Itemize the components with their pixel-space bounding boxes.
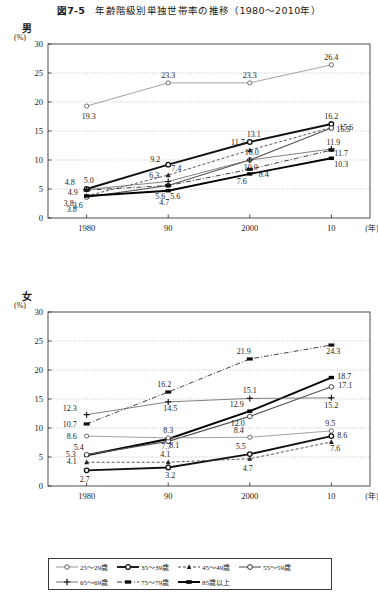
svg-text:15.1: 15.1 bbox=[243, 386, 257, 395]
svg-text:9.2: 9.2 bbox=[150, 155, 160, 164]
svg-text:3.8: 3.8 bbox=[67, 205, 77, 214]
svg-text:25: 25 bbox=[35, 336, 44, 346]
svg-text:30: 30 bbox=[35, 307, 44, 317]
male-line-chart: 051015202530198090200010(年)19.323.323.32… bbox=[0, 20, 378, 270]
svg-text:21.9: 21.9 bbox=[237, 347, 251, 356]
svg-text:5.0: 5.0 bbox=[84, 176, 94, 185]
svg-text:(年): (年) bbox=[365, 491, 378, 501]
svg-text:15.5: 15.5 bbox=[336, 125, 350, 134]
legend-row-bottom: 65～69歳 75～79歳 85歳以上 bbox=[49, 574, 331, 589]
svg-text:10: 10 bbox=[35, 155, 44, 165]
svg-text:30: 30 bbox=[35, 39, 44, 49]
svg-text:24.3: 24.3 bbox=[326, 347, 340, 356]
svg-text:4.9: 4.9 bbox=[68, 188, 78, 197]
svg-text:90: 90 bbox=[164, 491, 173, 501]
svg-text:15: 15 bbox=[35, 394, 44, 404]
svg-text:8.4: 8.4 bbox=[234, 426, 244, 435]
svg-text:10.7: 10.7 bbox=[63, 420, 77, 429]
svg-text:4.7: 4.7 bbox=[243, 464, 253, 473]
svg-text:8.6: 8.6 bbox=[67, 432, 77, 441]
legend-symbol-25-29 bbox=[56, 562, 78, 572]
legend-item-4: 65～69歳 bbox=[56, 577, 108, 587]
svg-text:(年): (年) bbox=[365, 223, 378, 233]
svg-text:5: 5 bbox=[39, 184, 43, 194]
svg-text:4.1: 4.1 bbox=[160, 450, 170, 459]
svg-text:4.7: 4.7 bbox=[159, 198, 169, 207]
svg-text:8.3: 8.3 bbox=[163, 426, 173, 435]
svg-text:10.0: 10.0 bbox=[245, 148, 259, 157]
svg-text:4.8: 4.8 bbox=[65, 178, 75, 187]
legend-item-3: 55～59歳 bbox=[239, 562, 291, 572]
legend-row-top: 25～29歳 35～39歳 45～49歳 55～59歳 bbox=[49, 559, 331, 574]
svg-text:19.3: 19.3 bbox=[82, 112, 96, 121]
legend-label-4: 65～69歳 bbox=[80, 577, 108, 587]
male-plot-area: 051015202530198090200010(年)19.323.323.32… bbox=[0, 20, 378, 270]
svg-text:5: 5 bbox=[39, 452, 43, 462]
svg-text:26.4: 26.4 bbox=[324, 53, 338, 62]
svg-text:90: 90 bbox=[164, 223, 173, 233]
svg-text:20: 20 bbox=[35, 97, 44, 107]
svg-text:25: 25 bbox=[35, 68, 44, 78]
svg-text:18.7: 18.7 bbox=[337, 372, 351, 381]
legend-symbol-35-39 bbox=[117, 562, 139, 572]
svg-text:2000: 2000 bbox=[241, 491, 258, 501]
svg-text:11.9: 11.9 bbox=[327, 138, 341, 147]
female-line-chart: 051015202530198090200010(年)10.716.221.92… bbox=[0, 288, 378, 538]
legend-item-6: 85歳以上 bbox=[178, 577, 230, 587]
legend-item-1: 35～39歳 bbox=[117, 562, 169, 572]
svg-text:2.7: 2.7 bbox=[80, 475, 90, 484]
legend-item-0: 25～29歳 bbox=[56, 562, 108, 572]
svg-text:12.3: 12.3 bbox=[63, 404, 77, 413]
svg-text:4.1: 4.1 bbox=[67, 457, 77, 466]
svg-text:16.2: 16.2 bbox=[324, 112, 338, 121]
legend-label-2: 45～49歳 bbox=[202, 562, 230, 572]
svg-text:1980: 1980 bbox=[78, 491, 95, 501]
legend-label-3: 55～59歳 bbox=[263, 562, 291, 572]
legend-symbol-45-49 bbox=[178, 562, 200, 572]
svg-text:16.2: 16.2 bbox=[157, 380, 171, 389]
legend-symbol-65-69 bbox=[56, 577, 78, 587]
svg-text:7.4: 7.4 bbox=[171, 164, 181, 173]
legend-label-6: 85歳以上 bbox=[202, 577, 230, 587]
figure-title-text: 年齢階級別単独世帯率の推移（1980～2010年） bbox=[95, 5, 321, 16]
svg-text:15: 15 bbox=[35, 126, 44, 136]
legend-symbol-85-plus bbox=[178, 577, 200, 587]
svg-text:2000: 2000 bbox=[241, 223, 258, 233]
svg-text:11.7: 11.7 bbox=[231, 138, 245, 147]
svg-text:8.6: 8.6 bbox=[337, 431, 347, 440]
legend-label-1: 35～39歳 bbox=[141, 562, 169, 572]
svg-text:20: 20 bbox=[35, 365, 44, 375]
svg-text:0: 0 bbox=[39, 213, 43, 223]
svg-text:0: 0 bbox=[39, 481, 43, 491]
svg-text:14.5: 14.5 bbox=[163, 404, 177, 413]
svg-text:5.4: 5.4 bbox=[74, 443, 84, 452]
figure-number: 図7-5 bbox=[57, 5, 85, 16]
svg-text:9.5: 9.5 bbox=[325, 419, 335, 428]
svg-text:17.1: 17.1 bbox=[338, 381, 352, 390]
legend-label-0: 25～29歳 bbox=[80, 562, 108, 572]
female-plot-area: 051015202530198090200010(年)10.716.221.92… bbox=[0, 288, 378, 538]
svg-text:1980: 1980 bbox=[78, 223, 95, 233]
legend-label-5: 75～79歳 bbox=[141, 577, 169, 587]
svg-text:12.9: 12.9 bbox=[230, 400, 244, 409]
panel-male: 男 (%) 051015202530198090200010(年)19.323.… bbox=[0, 20, 378, 288]
chart-legend: 25～29歳 35～39歳 45～49歳 55～59歳 bbox=[48, 558, 332, 590]
svg-text:10: 10 bbox=[35, 423, 44, 433]
svg-text:10: 10 bbox=[327, 491, 336, 501]
svg-text:10.3: 10.3 bbox=[334, 160, 348, 169]
svg-text:6.3: 6.3 bbox=[149, 171, 159, 180]
figure-title: 図7-5 年齢階級別単独世帯率の推移（1980～2010年） bbox=[0, 3, 378, 17]
svg-text:5.5: 5.5 bbox=[236, 442, 246, 451]
svg-text:11.7: 11.7 bbox=[334, 149, 348, 158]
svg-text:23.3: 23.3 bbox=[243, 71, 257, 80]
svg-text:7.6: 7.6 bbox=[237, 177, 247, 186]
svg-text:10.0: 10.0 bbox=[244, 163, 258, 172]
svg-text:3.2: 3.2 bbox=[165, 471, 175, 480]
svg-text:5.6: 5.6 bbox=[170, 192, 180, 201]
svg-text:15.2: 15.2 bbox=[324, 401, 338, 410]
legend-symbol-55-59 bbox=[239, 562, 261, 572]
legend-symbol-75-79 bbox=[117, 577, 139, 587]
legend-item-5: 75～79歳 bbox=[117, 577, 169, 587]
panel-female: 女 (%) 051015202530198090200010(年)10.716.… bbox=[0, 288, 378, 546]
svg-text:13.1: 13.1 bbox=[247, 130, 261, 139]
